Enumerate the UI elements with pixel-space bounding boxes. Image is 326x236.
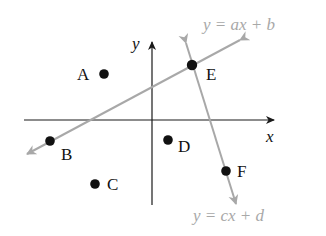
label-f: F xyxy=(237,162,246,181)
label-e: E xyxy=(206,65,216,84)
line-ax-plus-b xyxy=(27,40,240,154)
label-a: A xyxy=(77,65,90,84)
equation-ax-plus-b: y = ax + b xyxy=(201,15,275,34)
point-d xyxy=(163,135,173,145)
point-e xyxy=(187,60,197,70)
label-c: C xyxy=(107,175,118,194)
y-axis-label: y xyxy=(130,34,140,53)
coordinate-diagram: A B C D E F x y y = ax + b y = cx + d xyxy=(0,0,326,236)
point-a xyxy=(99,69,109,79)
equation-cx-plus-d: y = cx + d xyxy=(191,206,265,225)
point-f xyxy=(221,166,231,176)
label-d: D xyxy=(178,137,190,156)
label-b: B xyxy=(61,145,72,164)
x-axis-label: x xyxy=(265,127,274,146)
point-b xyxy=(45,136,55,146)
point-c xyxy=(90,179,100,189)
